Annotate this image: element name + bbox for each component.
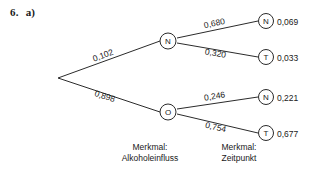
caption-left: Merkmal: Alkoholeinfluss [94, 142, 206, 163]
leaf-value-n-lower: 0,221 [277, 93, 299, 103]
edge-root-to-n [58, 41, 160, 78]
leaf-node-t-upper: T [259, 50, 274, 65]
caption-left-line2: Alkoholeinfluss [94, 153, 206, 164]
node-letter: O [165, 108, 171, 117]
node-letter: T [264, 53, 269, 62]
caption-right: Merkmal: Zeitpunkt [196, 142, 282, 163]
edge-weight-root-o: 0,898 [93, 88, 117, 104]
leaf-value-t-upper: 0,033 [277, 53, 299, 63]
caption-left-line1: Merkmal: [94, 142, 206, 153]
tree-diagram-page: 6.a) N O N T N [0, 0, 321, 174]
node-n-level1: N [160, 33, 176, 49]
edge-weight-o-n: 0,246 [203, 89, 226, 102]
node-letter: T [264, 129, 269, 138]
edge-weight-root-n: 0,102 [91, 47, 115, 64]
node-o-level1: O [160, 104, 176, 120]
leaf-node-n-upper: N [259, 14, 274, 29]
leaf-node-t-lower: T [259, 126, 274, 141]
edge-weight-o-t: 0,754 [204, 120, 227, 135]
leaf-value-n-upper: 0,069 [277, 17, 299, 27]
edge-weight-n-t: 0,320 [204, 46, 227, 60]
leaf-node-n-lower: N [259, 90, 274, 105]
caption-right-line2: Zeitpunkt [196, 153, 282, 164]
node-letter: N [263, 17, 269, 26]
leaf-value-t-lower: 0,677 [277, 129, 299, 139]
node-letter: N [263, 93, 269, 102]
caption-right-line1: Merkmal: [196, 142, 282, 153]
node-letter: N [165, 37, 171, 46]
